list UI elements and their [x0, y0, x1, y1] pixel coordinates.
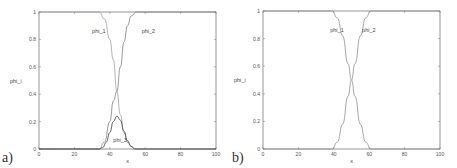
y-axis-label: phi_i: [10, 78, 22, 84]
series-phi_3: [39, 116, 216, 149]
x-axis-label: x: [350, 158, 353, 164]
y-tick-label: 0.8: [253, 36, 260, 42]
y-tick-label: 0.2: [253, 118, 260, 124]
x-tick-label: 60: [142, 151, 148, 157]
series-label: phi_3: [113, 137, 126, 143]
x-tick-label: 80: [178, 151, 184, 157]
series-phi_2: [263, 11, 440, 149]
y-axis-label: phi_i: [234, 77, 246, 83]
y-tick-label: 1: [33, 9, 36, 15]
y-tick-label: 0: [33, 146, 36, 152]
panel-label: a): [2, 150, 13, 166]
x-axis-label: x: [126, 158, 129, 164]
y-tick-label: 0.6: [253, 63, 260, 69]
y-tick-label: 0.4: [29, 91, 36, 97]
x-tick-label: 80: [402, 151, 408, 157]
x-tick-label: 20: [72, 151, 78, 157]
x-tick-label: 40: [107, 151, 113, 157]
series-label: phi_1: [92, 28, 105, 34]
x-tick-label: 100: [436, 151, 445, 157]
y-tick-label: 1: [257, 8, 260, 14]
chart-figure: 02040608010000.20.40.60.81xphi_ia)phi_1p…: [0, 0, 457, 168]
x-tick-label: 60: [366, 151, 372, 157]
series-label: phi_2: [362, 27, 375, 33]
plot-frame-1: [39, 12, 216, 149]
y-tick-label: 0.6: [29, 64, 36, 70]
series-phi_2: [39, 12, 216, 149]
series-label: phi_2: [142, 28, 155, 34]
y-tick-label: 0.4: [253, 91, 260, 97]
y-tick-label: 0.2: [29, 119, 36, 125]
panel-label: b): [232, 150, 244, 166]
x-tick-label: 40: [331, 151, 337, 157]
x-tick-label: 0: [38, 151, 41, 157]
x-tick-label: 20: [296, 151, 302, 157]
y-tick-label: 0.8: [29, 36, 36, 42]
series-phi_1: [39, 12, 216, 149]
x-tick-label: 0: [262, 151, 265, 157]
x-tick-label: 100: [212, 151, 221, 157]
y-tick-label: 0: [257, 146, 260, 152]
series-label: phi_1: [330, 27, 343, 33]
